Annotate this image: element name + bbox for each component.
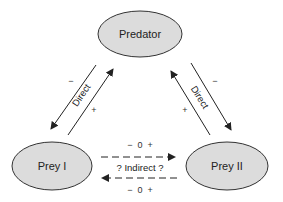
left-inner-sign: + — [91, 105, 96, 115]
right-inner-sign: + — [182, 105, 187, 115]
edge-left-direct: − + Direct — [51, 65, 113, 135]
node-prey-2: Prey II — [186, 142, 268, 190]
indirect-label: ? Indirect ? — [117, 162, 164, 173]
node-predator-label: Predator — [119, 28, 162, 40]
node-prey-2-label: Prey II — [211, 160, 243, 172]
indirect-bottom-signs: − 0 + — [127, 185, 153, 195]
edge-indirect: − 0 + ? Indirect ? − 0 + — [101, 140, 177, 195]
right-outer-sign: − — [212, 76, 217, 86]
right-direct-label: Direct — [189, 84, 212, 111]
edge-right-direct: − + Direct — [171, 63, 231, 135]
predator-prey-diagram: Predator Prey I Prey II − + Direct − + D… — [0, 0, 283, 202]
indirect-top-signs: − 0 + — [127, 140, 153, 150]
node-prey-1: Prey I — [12, 142, 92, 190]
node-prey-1-label: Prey I — [38, 160, 67, 172]
left-outer-sign: − — [68, 76, 73, 86]
node-predator: Predator — [98, 11, 182, 57]
